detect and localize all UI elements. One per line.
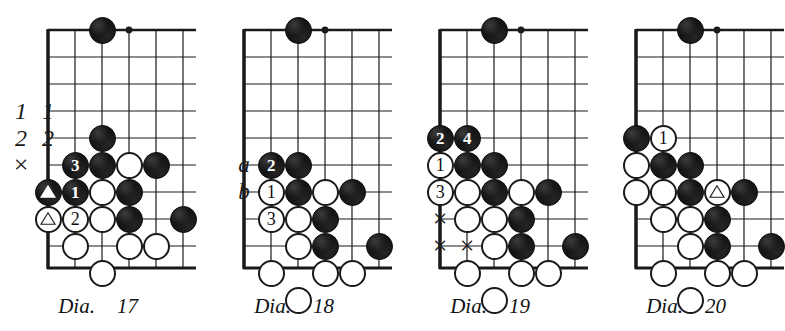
white-stone[interactable]	[285, 206, 312, 233]
caption-word: Dia.	[254, 294, 291, 318]
black-stone[interactable]	[623, 125, 650, 152]
black-stone[interactable]: 2	[258, 152, 285, 179]
white-stone[interactable]	[481, 233, 508, 260]
white-stone[interactable]	[116, 233, 143, 260]
white-stone[interactable]	[62, 233, 89, 260]
white-stone[interactable]	[258, 260, 285, 287]
white-stone[interactable]	[312, 179, 339, 206]
go-board: 213ab	[196, 0, 392, 285]
white-stone[interactable]	[650, 206, 677, 233]
black-stone[interactable]	[366, 233, 393, 260]
white-stone[interactable]	[623, 179, 650, 206]
black-stone[interactable]	[285, 179, 312, 206]
black-stone[interactable]	[143, 152, 170, 179]
black-stone[interactable]	[89, 125, 116, 152]
black-stone[interactable]	[481, 17, 508, 44]
caption-word: Dia.	[450, 294, 487, 318]
point-number-label: 1	[35, 98, 62, 125]
go-diagram-20: 1Dia.20	[588, 0, 784, 331]
black-stone[interactable]	[35, 179, 62, 206]
black-stone[interactable]	[704, 233, 731, 260]
black-stone[interactable]	[731, 179, 758, 206]
black-stone[interactable]	[481, 179, 508, 206]
black-stone[interactable]	[508, 233, 535, 260]
white-stone[interactable]	[454, 206, 481, 233]
black-stone[interactable]: 3	[62, 152, 89, 179]
black-stone[interactable]	[339, 179, 366, 206]
caption-word: Dia.	[58, 294, 95, 318]
white-stone[interactable]: 1	[427, 152, 454, 179]
white-stone[interactable]: 3	[427, 179, 454, 206]
star-point	[322, 27, 329, 34]
white-stone[interactable]	[481, 206, 508, 233]
white-stone[interactable]	[312, 260, 339, 287]
black-stone[interactable]	[677, 152, 704, 179]
black-stone[interactable]	[312, 206, 339, 233]
black-stone[interactable]	[562, 233, 589, 260]
white-stone[interactable]: 3	[258, 206, 285, 233]
go-diagram-17: 3121122×Dia.17	[0, 0, 196, 331]
black-stone[interactable]	[285, 152, 312, 179]
white-stone[interactable]: 1	[258, 179, 285, 206]
black-stone[interactable]	[704, 206, 731, 233]
white-stone[interactable]	[89, 260, 116, 287]
stone-move-number: 2	[436, 129, 444, 146]
black-stone[interactable]	[758, 233, 785, 260]
black-stone[interactable]	[677, 179, 704, 206]
diagram-caption: Dia.20	[588, 294, 784, 319]
black-stone[interactable]	[89, 17, 116, 44]
white-stone[interactable]	[89, 179, 116, 206]
go-diagram-18: 213abDia.18	[196, 0, 392, 331]
white-stone[interactable]	[285, 233, 312, 260]
white-stone[interactable]	[508, 179, 535, 206]
black-stone[interactable]	[650, 152, 677, 179]
point-letter-label: b	[231, 179, 258, 206]
white-stone[interactable]	[339, 260, 366, 287]
stone-move-number: 2	[267, 156, 275, 173]
triangle-mark-inner	[711, 187, 723, 197]
black-stone[interactable]	[312, 233, 339, 260]
white-stone[interactable]	[677, 233, 704, 260]
black-stone[interactable]	[677, 17, 704, 44]
black-stone[interactable]: 1	[62, 179, 89, 206]
white-stone[interactable]	[89, 206, 116, 233]
white-stone[interactable]	[454, 179, 481, 206]
caption-number: 18	[313, 294, 334, 318]
point-number-label: 2	[35, 125, 62, 152]
white-stone[interactable]	[650, 179, 677, 206]
caption-number: 19	[509, 294, 530, 318]
point-number-label: 1	[8, 98, 35, 125]
black-stone[interactable]	[116, 179, 143, 206]
black-stone[interactable]	[285, 17, 312, 44]
white-stone[interactable]: 2	[62, 206, 89, 233]
black-stone[interactable]	[508, 206, 535, 233]
black-stone[interactable]	[170, 206, 197, 233]
white-stone[interactable]	[143, 233, 170, 260]
white-stone[interactable]	[35, 206, 62, 233]
black-stone[interactable]: 4	[454, 125, 481, 152]
black-stone[interactable]	[454, 152, 481, 179]
stone-move-number: 4	[463, 129, 471, 146]
white-stone[interactable]	[704, 260, 731, 287]
black-stone[interactable]	[89, 152, 116, 179]
caption-number: 20	[705, 294, 726, 318]
white-stone[interactable]	[535, 260, 562, 287]
black-stone[interactable]	[481, 152, 508, 179]
black-stone[interactable]	[116, 206, 143, 233]
white-stone[interactable]	[677, 206, 704, 233]
caption-word: Dia.	[646, 294, 683, 318]
white-stone[interactable]	[623, 152, 650, 179]
white-stone[interactable]	[650, 260, 677, 287]
white-stone[interactable]: 1	[650, 125, 677, 152]
triangle-mark-icon	[709, 185, 725, 198]
black-stone[interactable]: 2	[427, 125, 454, 152]
white-stone[interactable]	[731, 260, 758, 287]
black-stone[interactable]	[535, 179, 562, 206]
white-stone[interactable]	[454, 260, 481, 287]
star-point	[714, 27, 721, 34]
white-stone[interactable]	[704, 179, 731, 206]
white-stone[interactable]	[508, 260, 535, 287]
white-stone[interactable]	[116, 152, 143, 179]
cross-mark-icon: ×	[427, 206, 454, 233]
